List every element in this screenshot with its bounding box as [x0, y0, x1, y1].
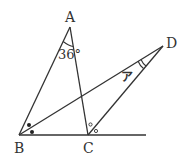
- angle-mark-B-dot-1: [27, 123, 31, 127]
- angle-mark-C-circle-1: [89, 123, 92, 126]
- angle-label-A: 36°: [58, 47, 81, 62]
- angle-label-D: ア: [121, 70, 133, 84]
- geometry-diagram: A B C D 36° ア: [0, 0, 187, 161]
- segment-AC: [70, 27, 88, 135]
- segment-CD: [88, 46, 163, 135]
- vertex-label-B: B: [14, 140, 24, 156]
- angle-mark-B-dot-2: [30, 130, 34, 134]
- vertex-label-C: C: [83, 140, 94, 156]
- angle-mark-C-circle-2: [94, 129, 97, 132]
- angle-arc-A: [63, 42, 73, 47]
- vertex-label-A: A: [64, 9, 76, 25]
- vertex-label-D: D: [166, 35, 177, 51]
- angle-arc-D-1: [141, 60, 146, 67]
